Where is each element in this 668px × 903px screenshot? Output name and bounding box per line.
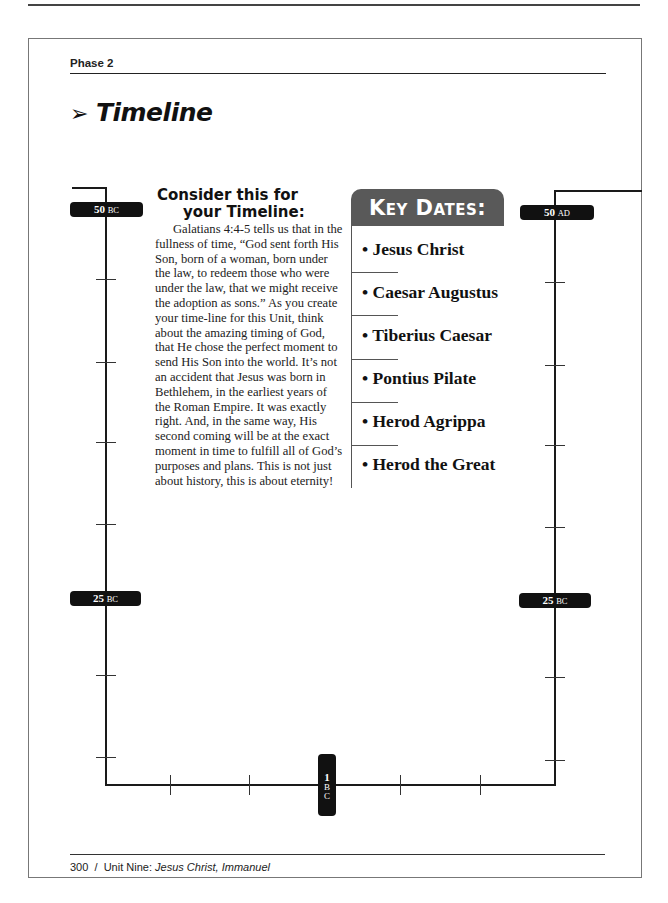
key-date-divider: [352, 272, 398, 273]
label-era: BC: [556, 596, 567, 606]
timeline-tick: [545, 445, 565, 446]
footer-separator: /: [94, 861, 97, 873]
key-date-item: • Herod Agrippa: [362, 411, 485, 432]
label-number: 25: [542, 594, 553, 606]
top-rule: [28, 4, 640, 6]
consider-heading-line1: Consider this for: [157, 186, 298, 204]
timeline-tick: [545, 365, 565, 366]
timeline-tick: [96, 524, 116, 525]
label-number: 50: [544, 206, 555, 218]
key-date-divider: [352, 315, 398, 316]
timeline-tick: [96, 675, 116, 676]
timeline-line-left: [105, 187, 107, 786]
footer: 300 / Unit Nine: Jesus Christ, Immanuel: [70, 861, 270, 873]
timeline-tick: [545, 282, 565, 283]
timeline-tick: [96, 757, 116, 758]
timeline-label-25bc-left: 25 BC: [70, 591, 141, 606]
key-date-item: • Jesus Christ: [362, 239, 464, 260]
label-era: AD: [558, 208, 570, 218]
consider-heading: Consider this for your Timeline:: [157, 187, 337, 221]
timeline-label-50bc: 50 BC: [70, 202, 143, 217]
label-number: 25: [93, 592, 104, 604]
label-era: BC: [108, 205, 119, 215]
label-era: C: [318, 792, 336, 801]
timeline-tick: [96, 362, 116, 363]
timeline-tick: [545, 527, 565, 528]
label-era: BC: [107, 594, 118, 604]
key-date-item: • Caesar Augustus: [362, 282, 498, 303]
timeline-label-1bc: 1 B C: [318, 754, 336, 816]
timeline-tick: [480, 775, 481, 795]
timeline-tick: [96, 442, 116, 443]
consider-body: Galatians 4:4-5 tells us that in the ful…: [155, 222, 345, 488]
timeline-line-top-right: [554, 190, 642, 192]
page-number: 300: [70, 861, 88, 873]
key-dates-border: [351, 226, 352, 488]
timeline-tick: [400, 775, 401, 795]
timeline-line-right: [554, 190, 556, 786]
key-dates-heading: Key Dates:: [351, 189, 504, 226]
footer-rule: [70, 854, 605, 855]
key-date-item: • Pontius Pilate: [362, 368, 476, 389]
timeline-label-50ad: 50 AD: [520, 205, 594, 220]
page-title: ➢Timeline: [70, 98, 212, 127]
timeline-tick: [96, 279, 116, 280]
arrow-icon: ➢: [70, 101, 88, 126]
timeline-line-top-left: [72, 187, 107, 189]
unit-title: Jesus Christ, Immanuel: [155, 861, 270, 873]
label-number: 50: [94, 203, 105, 215]
key-date-divider: [352, 359, 398, 360]
key-date-item: • Tiberius Caesar: [362, 325, 492, 346]
key-date-divider: [352, 445, 398, 446]
phase-rule: [70, 73, 606, 74]
page-title-text: Timeline: [96, 98, 213, 127]
timeline-tick: [545, 677, 565, 678]
timeline-tick: [249, 775, 250, 795]
timeline-label-25bc-right: 25 BC: [519, 593, 591, 608]
key-date-divider: [352, 402, 398, 403]
phase-label: Phase 2: [70, 57, 113, 69]
unit-label: Unit Nine:: [104, 861, 152, 873]
timeline-tick: [545, 760, 565, 761]
consider-heading-line2: your Timeline:: [157, 204, 337, 221]
key-date-item: • Herod the Great: [362, 454, 495, 475]
timeline-tick: [170, 775, 171, 795]
